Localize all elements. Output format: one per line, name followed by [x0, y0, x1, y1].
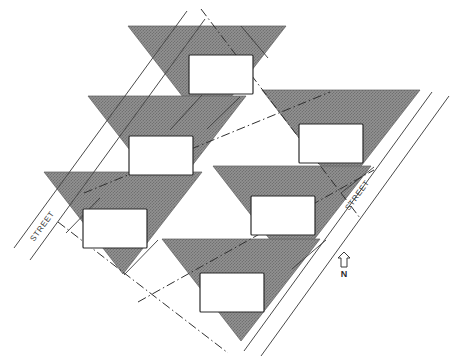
building-middle-right[interactable] [251, 196, 315, 235]
building-top-center[interactable] [189, 55, 253, 94]
building-bottom-center[interactable] [200, 273, 264, 312]
building-upper-left[interactable] [129, 136, 193, 175]
north-arrow-label: N [341, 269, 348, 279]
building-lower-left[interactable] [83, 209, 147, 248]
site-plan-diagram: STREET STREET N [0, 0, 463, 363]
plan-canvas: STREET STREET N [0, 0, 463, 363]
building-upper-right[interactable] [299, 124, 363, 163]
